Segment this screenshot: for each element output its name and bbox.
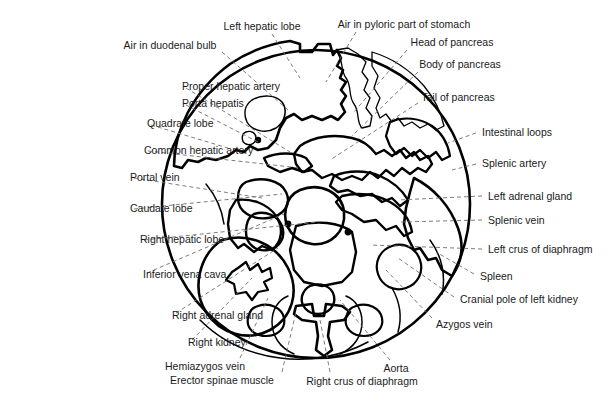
label-air-pyloric-stomach: Air in pyloric part of stomach xyxy=(338,19,470,30)
label-portal-vein: Portal vein xyxy=(130,172,180,183)
label-body-of-pancreas: Body of pancreas xyxy=(419,59,501,70)
diagram-page: Left hepatic lobeAir in pyloric part of … xyxy=(0,0,612,408)
anatomy-figure xyxy=(0,0,612,408)
label-inferior-vena-cava: Inferior vena cava xyxy=(143,269,226,280)
label-quadrate-lobe: Quadrate lobe xyxy=(147,118,214,129)
label-right-hepatic-lobe: Right hepatic lobe xyxy=(140,234,224,245)
label-porta-hepatis: Porta hepatis xyxy=(182,98,244,109)
label-cranial-pole-left-kidney: Cranial pole of left kidney xyxy=(460,294,578,305)
label-right-kidney: Right kidney xyxy=(188,337,246,348)
label-aorta: Aorta xyxy=(383,363,408,374)
label-head-of-pancreas: Head of pancreas xyxy=(411,37,494,48)
hepatic-vessel-dot xyxy=(255,137,261,143)
label-proper-hepatic-artery: Proper hepatic artery xyxy=(182,81,280,92)
label-common-hepatic-artery: Common hepatic artery xyxy=(144,145,253,156)
label-splenic-vein: Splenic vein xyxy=(488,215,545,226)
label-left-adrenal-gland: Left adrenal gland xyxy=(488,191,572,202)
label-tail-of-pancreas: Tail of pancreas xyxy=(421,92,495,103)
label-left-hepatic-lobe: Left hepatic lobe xyxy=(223,21,300,32)
label-air-duodenal-bulb: Air in duodenal bulb xyxy=(124,40,217,51)
label-hemiazygos-vein: Hemiazygos vein xyxy=(165,361,245,372)
label-splenic-artery: Splenic artery xyxy=(482,158,546,169)
label-right-crus-of-diaphragm: Right crus of diaphragm xyxy=(306,376,417,387)
hemiazygos-vein-dot xyxy=(345,229,352,236)
label-caudate-lobe: Caudate lobe xyxy=(130,203,192,214)
label-spleen: Spleen xyxy=(480,271,513,282)
label-azygos-vein: Azygos vein xyxy=(436,319,493,330)
label-right-adrenal-gland: Right adrenal gland xyxy=(172,310,263,321)
label-left-crus-of-diaphragm: Left crus of diaphragm xyxy=(488,244,592,255)
azygos-vein-dot xyxy=(285,221,292,228)
label-intestinal-loops: Intestinal loops xyxy=(482,127,552,138)
label-erector-spinae-muscle: Erector spinae muscle xyxy=(170,375,274,386)
